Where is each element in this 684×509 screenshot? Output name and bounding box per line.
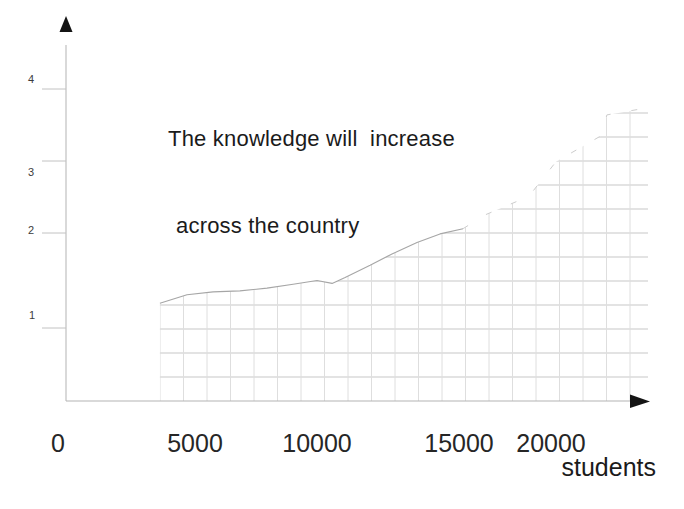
x-tick-label-15000: 15000 xyxy=(424,429,494,457)
x-tick-label-10000: 10000 xyxy=(282,429,352,457)
x-axis-title: students xyxy=(561,453,656,482)
x-axis-arrow-icon xyxy=(630,395,650,409)
y-tick-label-1: 1 xyxy=(29,309,35,321)
y-tick-label-4: 4 xyxy=(28,73,34,85)
chart-title-line1: The knowledge will increase xyxy=(168,124,455,153)
y-tick-label-2: 2 xyxy=(28,224,34,236)
x-tick-label-5000: 5000 xyxy=(167,429,223,457)
y-axis-arrow-icon xyxy=(60,16,73,32)
scanned-chart-page: 050001000015000200004321 The knowledge w… xyxy=(0,0,684,509)
curve-line-faint xyxy=(463,108,648,229)
x-tick-label-0: 0 xyxy=(51,429,65,457)
y-tick-label-3: 3 xyxy=(28,166,34,178)
chart-title-line2: across the country xyxy=(168,211,455,240)
chart-title: The knowledge will increase across the c… xyxy=(168,66,455,298)
